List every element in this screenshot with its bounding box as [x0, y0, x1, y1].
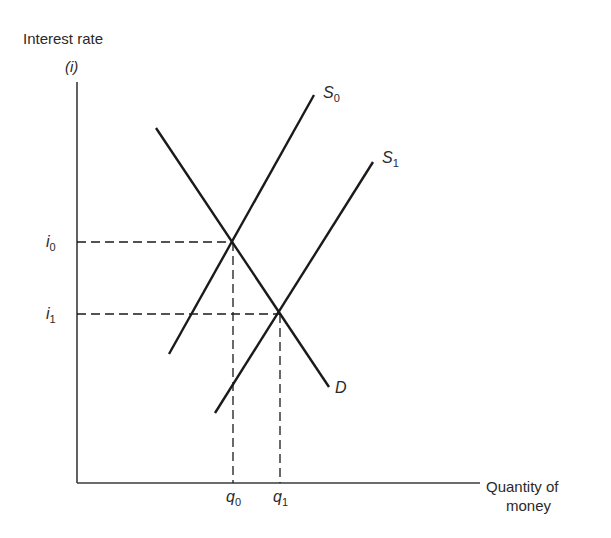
tick-label-i0: i0	[46, 233, 56, 253]
tick-label-i1: i1	[46, 305, 56, 325]
curve-label-d: D	[335, 379, 347, 396]
curve-label-s1: S1	[382, 149, 399, 169]
tick-label-q0: q0	[226, 488, 241, 508]
y-axis-title: Interest rate	[23, 30, 103, 47]
y-axis-symbol: (i)	[65, 58, 78, 75]
x-axis-title-line2: money	[506, 497, 552, 514]
supply-curve-s1	[215, 162, 373, 413]
x-axis-title-line1: Quantity of	[486, 478, 559, 495]
demand-curve-d	[156, 128, 329, 387]
tick-label-q1: q1	[273, 488, 288, 508]
curve-label-s0: S0	[323, 84, 340, 104]
money-market-diagram: Interest rate (i) Quantity of money i0 i…	[0, 0, 611, 538]
supply-curve-s0	[169, 95, 314, 354]
